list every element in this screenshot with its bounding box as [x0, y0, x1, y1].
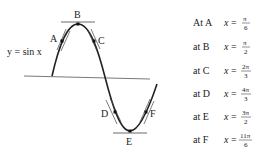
legend-row-d: at D x = 4π 3: [193, 86, 251, 103]
svg-text:At A: At A: [193, 17, 213, 28]
label-d: D: [101, 108, 108, 119]
legend-row-b: at B x = π 2: [193, 39, 250, 56]
sine-diagram: A B C D E F y = sin x At A x = π 6 at B …: [0, 0, 261, 159]
legend-row-f: at F x = 11π 6: [193, 132, 252, 149]
point-e: [129, 130, 132, 133]
svg-text:at C: at C: [193, 65, 210, 76]
svg-text:at D: at D: [193, 88, 210, 99]
svg-text:at B: at B: [193, 41, 210, 52]
svg-text:=: =: [231, 134, 237, 145]
svg-text:x: x: [223, 65, 229, 76]
curve-label: y = sin x: [7, 46, 42, 57]
svg-text:=: =: [231, 111, 237, 122]
svg-text:x: x: [223, 17, 229, 28]
svg-text:11π: 11π: [240, 132, 251, 140]
svg-text:=: =: [231, 88, 237, 99]
svg-text:2π: 2π: [242, 63, 250, 71]
tangent-d2: [110, 98, 121, 122]
point-b: [77, 23, 80, 26]
svg-text:=: =: [231, 65, 237, 76]
svg-text:x: x: [223, 111, 229, 122]
legend-row-c: at C x = 2π 3: [193, 63, 251, 80]
x-axis: [24, 76, 150, 79]
point-d: [114, 111, 117, 114]
svg-text:at E: at E: [193, 111, 209, 122]
svg-text:at F: at F: [193, 134, 209, 145]
svg-text:x: x: [223, 41, 229, 52]
svg-text:2: 2: [244, 118, 248, 126]
svg-text:x: x: [223, 88, 229, 99]
svg-text:3: 3: [244, 72, 248, 80]
svg-text:3: 3: [244, 95, 248, 103]
svg-text:2: 2: [244, 48, 248, 56]
label-f: F: [150, 108, 156, 119]
svg-text:x: x: [223, 134, 229, 145]
point-f: [145, 111, 148, 114]
label-b: B: [74, 9, 81, 20]
label-a: A: [50, 33, 58, 44]
point-c: [93, 40, 96, 43]
legend-row-a: At A x = π 6: [193, 15, 250, 32]
label-e: E: [126, 136, 132, 147]
legend-row-e: at E x = 3π 2: [193, 109, 251, 126]
svg-text:4π: 4π: [242, 86, 250, 94]
svg-text:π: π: [243, 39, 247, 47]
svg-text:3π: 3π: [242, 109, 250, 117]
svg-text:=: =: [231, 17, 237, 28]
svg-text:6: 6: [244, 24, 248, 32]
svg-text:6: 6: [244, 141, 248, 149]
point-a: [61, 40, 64, 43]
svg-text:=: =: [231, 41, 237, 52]
svg-text:π: π: [243, 15, 247, 23]
label-c: C: [98, 35, 105, 46]
